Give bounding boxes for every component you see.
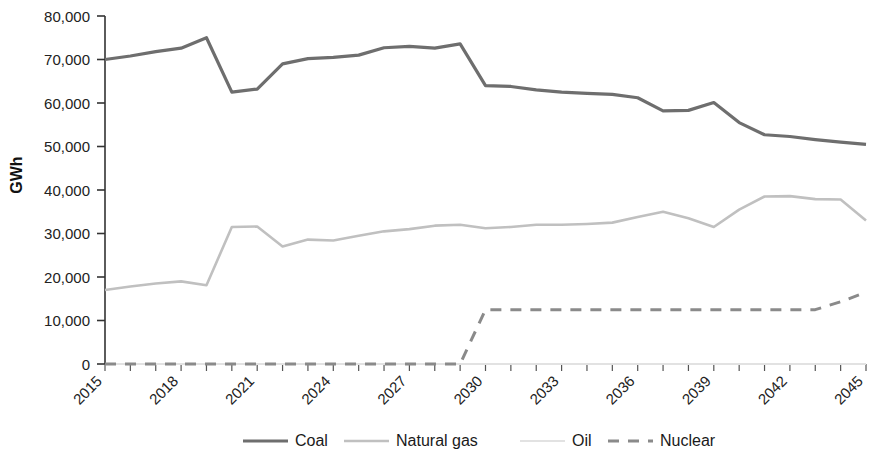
y-tick-label: 30,000 <box>44 225 90 242</box>
y-tick-label: 60,000 <box>44 95 90 112</box>
legend-label-coal: Coal <box>295 432 328 449</box>
y-tick-label: 80,000 <box>44 8 90 25</box>
y-tick-label: 40,000 <box>44 182 90 199</box>
series-line-coal <box>105 38 866 145</box>
x-tick-label: 2045 <box>831 372 867 408</box>
y-axis-ticks: 80,00070,00060,00050,00040,00030,00020,0… <box>44 8 105 373</box>
chart-legend: CoalNatural gasOilNuclear <box>243 432 716 449</box>
x-tick-label: 2039 <box>678 372 714 408</box>
x-tick-label: 2027 <box>374 372 410 408</box>
x-tick-label: 2036 <box>602 372 638 408</box>
x-tick-label: 2030 <box>450 372 486 408</box>
x-tick-label: 2015 <box>70 372 106 408</box>
legend-label-oil: Oil <box>572 432 592 449</box>
y-tick-label: 20,000 <box>44 269 90 286</box>
chart-canvas: GWh 80,00070,00060,00050,00040,00030,000… <box>0 0 870 466</box>
legend-label-nuclear: Nuclear <box>660 432 716 449</box>
series-line-nuclear <box>105 292 866 364</box>
x-axis-ticks: 2015201820212024202720302033203620392042… <box>70 364 867 408</box>
y-tick-label: 10,000 <box>44 312 90 329</box>
y-tick-label: 0 <box>82 356 90 373</box>
line-chart: GWh 80,00070,00060,00050,00040,00030,000… <box>0 0 870 466</box>
legend-label-natural-gas: Natural gas <box>396 432 478 449</box>
x-tick-label: 2033 <box>526 372 562 408</box>
x-tick-label: 2018 <box>146 372 182 408</box>
x-tick-label: 2021 <box>222 372 258 408</box>
y-tick-label: 70,000 <box>44 51 90 68</box>
series-line-natural-gas <box>105 196 866 290</box>
x-tick-label: 2024 <box>298 372 334 408</box>
series-layer <box>105 38 866 364</box>
y-axis-title: GWh <box>8 156 25 193</box>
y-tick-label: 50,000 <box>44 138 90 155</box>
x-tick-label: 2042 <box>754 372 790 408</box>
